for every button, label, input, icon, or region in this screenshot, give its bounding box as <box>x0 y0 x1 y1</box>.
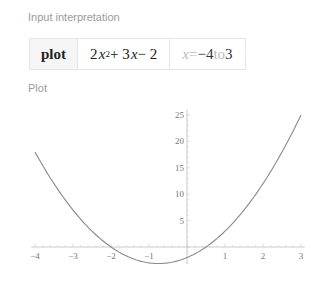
x-tick-label: 1 <box>223 251 228 261</box>
ticks: −4−3−2−1123510152025 <box>30 110 304 263</box>
y-tick-label: 5 <box>180 216 185 226</box>
x-tick-label: −3 <box>68 251 78 261</box>
y-tick-label: 10 <box>175 189 185 199</box>
x-tick-label: −2 <box>106 251 116 261</box>
function-curve <box>35 115 301 264</box>
x-tick-label: −1 <box>144 251 154 261</box>
x-tick-label: 3 <box>299 251 304 261</box>
function-plot: −4−3−2−1123510152025 <box>0 0 321 285</box>
y-tick-label: 25 <box>175 110 185 120</box>
curve-layer <box>35 115 301 264</box>
y-tick-label: 15 <box>175 163 185 173</box>
x-tick-label: 2 <box>261 251 266 261</box>
axes <box>31 110 305 264</box>
y-tick-label: 20 <box>175 136 185 146</box>
x-tick-label: −4 <box>30 251 40 261</box>
